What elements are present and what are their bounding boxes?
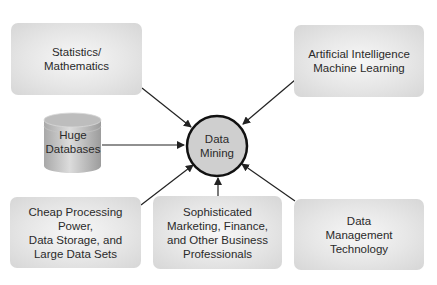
node-label-line: Mathematics <box>44 59 109 73</box>
node-cheap-processing: Cheap Processing Power, Data Storage, an… <box>10 197 141 268</box>
node-label-line: Professionals <box>167 247 268 261</box>
node-label-line: and Other Business <box>167 233 268 247</box>
node-label-line: Sophisticated <box>167 205 268 219</box>
node-data-management: Data Management Technology <box>294 199 424 270</box>
node-label-line: Technology <box>325 242 392 256</box>
center-label-line: Data <box>187 132 247 146</box>
center-data-mining: Data Mining <box>187 132 247 160</box>
node-label-line: Management <box>325 228 392 242</box>
edge-statistics <box>142 88 191 127</box>
node-label-line: Artificial Intelligence <box>308 47 410 61</box>
node-label-line: Statistics/ <box>44 45 109 59</box>
node-label-line: Data Storage, and <box>14 233 137 247</box>
node-label-line: Large Data Sets <box>14 247 137 261</box>
node-label-line: Machine Learning <box>308 61 410 75</box>
node-sophisticated-professionals: Sophisticated Marketing, Finance, and Ot… <box>153 196 282 269</box>
node-statistics: Statistics/ Mathematics <box>11 23 142 95</box>
edge-ai-ml <box>243 80 295 124</box>
center-label-line: Mining <box>187 146 247 160</box>
node-label-line: Databases <box>44 142 102 156</box>
node-label-line: Marketing, Finance, <box>167 219 268 233</box>
node-label-line: Data <box>325 214 392 228</box>
node-ai-ml: Artificial Intelligence Machine Learning <box>294 25 424 97</box>
node-label-line: Cheap Processing Power, <box>14 205 137 233</box>
node-huge-databases: Huge Databases <box>44 128 102 156</box>
node-label-line: Huge <box>44 128 102 142</box>
